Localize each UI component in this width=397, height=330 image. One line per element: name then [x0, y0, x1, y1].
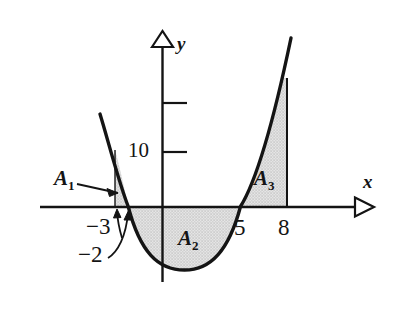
- region-label-A3-base: A: [254, 166, 268, 190]
- x-tick-label-minus-3: −3: [86, 215, 110, 238]
- region-label-A1-sub: 1: [68, 178, 75, 193]
- parabola-area-figure: y x 10 −3 −2 5 8 A1 A2 A3: [0, 0, 397, 330]
- region-label-A2: A2: [178, 228, 199, 252]
- region-label-A3: A3: [254, 168, 275, 192]
- x-axis-arrowhead-icon: [355, 198, 374, 217]
- x-tick-label-minus-2: −2: [78, 243, 102, 266]
- region-label-A1-base: A: [54, 166, 68, 190]
- region-label-A1: A1: [54, 168, 75, 192]
- region-label-A3-sub: 3: [268, 178, 275, 193]
- region-label-A2-sub: 2: [192, 238, 199, 253]
- arrow-to-x-minus-3: [114, 209, 123, 238]
- region-label-A2-base: A: [178, 226, 192, 250]
- y-tick-label-10: 10: [128, 140, 149, 161]
- x-axis-label: x: [363, 172, 373, 191]
- y-axis-arrowhead-icon: [152, 31, 173, 47]
- x-tick-label-8: 8: [278, 216, 290, 239]
- y-axis-label: y: [177, 34, 185, 53]
- plot-canvas: [0, 0, 397, 330]
- x-tick-label-5: 5: [234, 216, 246, 239]
- arrow-to-A1: [77, 184, 118, 197]
